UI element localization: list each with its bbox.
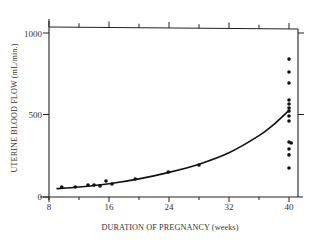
data-point [287,81,291,85]
data-point [197,163,201,167]
data-point [287,147,291,151]
data-point [287,166,291,170]
data-point [287,57,291,61]
data-point [110,182,114,186]
data-point [287,98,291,102]
x-tick-label: 24 [165,202,175,212]
data-point [287,102,291,106]
x-tick-labels: 816243240 [47,202,294,212]
data-point [287,153,291,157]
y-axis-ticks [43,33,49,197]
data-point [289,141,293,145]
chart: 816243240 05001000 DURATION OF PREGNANCY… [0,0,319,243]
data-point [287,119,291,123]
data-point [86,183,90,187]
data-point [98,184,102,188]
x-axis-title: DURATION OF PREGNANCY (weeks) [101,223,238,232]
x-tick-label: 40 [285,202,295,212]
data-point [133,177,137,181]
fitted-curve-line [57,110,290,188]
x-tick-label: 8 [47,202,52,212]
top-frame-line [49,27,298,29]
data-point [287,114,291,118]
right-axis-ticks [298,33,304,115]
x-tick-label: 32 [225,202,234,212]
data-point [287,109,291,113]
data-point [60,185,64,189]
y-tick-label: 0 [38,192,43,202]
x-tick-label: 16 [105,202,115,212]
y-tick-label: 1000 [24,29,43,39]
y-axis-title: UTERINE BLOOD FLOW (mL/min.) [10,43,19,172]
data-point [166,170,170,174]
plot-frame [40,19,303,200]
data-point [92,183,96,187]
y-tick-label: 500 [29,110,43,120]
data-point [287,70,291,74]
data-point [73,185,77,189]
y-tick-labels: 05001000 [24,29,43,202]
data-point [287,106,291,110]
data-points [60,57,293,189]
data-point [104,179,108,183]
